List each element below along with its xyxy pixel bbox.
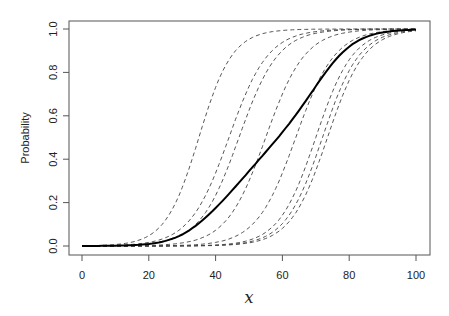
x-tick-label: 40 [209, 269, 221, 281]
x-tick-label: 20 [143, 269, 155, 281]
y-tick-label: 0.6 [47, 108, 59, 123]
average-curve [82, 30, 416, 246]
series-layer [82, 29, 416, 246]
component-curve [82, 29, 416, 246]
component-curve [82, 29, 416, 246]
x-tick-label: 60 [276, 269, 288, 281]
y-axis-label: Probability [19, 112, 31, 164]
x-axis-label: x [244, 288, 253, 307]
component-curve [82, 30, 416, 246]
y-tick-label: 0.2 [47, 195, 59, 210]
x-tick-label: 100 [407, 269, 425, 281]
component-curve [82, 30, 416, 246]
y-tick-label: 0.0 [47, 238, 59, 253]
component-curve [82, 29, 416, 246]
component-curve [82, 29, 416, 246]
x-tick-label: 0 [79, 269, 85, 281]
component-curve [82, 31, 416, 246]
component-curve [82, 30, 416, 247]
chart: 020406080100 0.00.20.40.60.81.0 x Probab… [0, 0, 449, 316]
y-tick-label: 0.4 [47, 152, 59, 167]
y-axis: 0.00.20.40.60.81.0 [47, 21, 69, 253]
y-tick-label: 0.8 [47, 65, 59, 80]
x-axis: 020406080100 [79, 255, 425, 281]
x-tick-label: 80 [343, 269, 355, 281]
plot-frame [69, 21, 430, 255]
y-tick-label: 1.0 [47, 21, 59, 36]
